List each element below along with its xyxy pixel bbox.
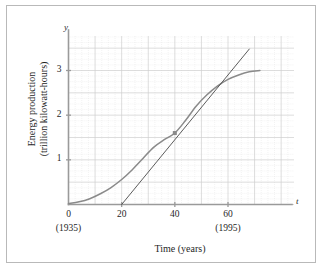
- x-tick-label: 40: [164, 209, 186, 219]
- x-tick-label: 60: [217, 209, 239, 219]
- x-axis-title: Time (years): [110, 243, 250, 254]
- y-axis-title-line-2: (trillion kilowatt-hours): [38, 34, 50, 184]
- tangent-line: [122, 49, 250, 204]
- grid-major-lines: [69, 36, 295, 205]
- year-annotation: (1995): [205, 223, 251, 233]
- x-tick-label: 0: [58, 209, 80, 219]
- y-axis-title: Energy production (trillion kilowatt-hou…: [26, 34, 50, 184]
- axis-lines: [69, 30, 293, 205]
- grid-minor-lines: [69, 36, 295, 205]
- x-axis-letter: t: [296, 196, 299, 206]
- x-tick-label: 20: [111, 209, 133, 219]
- axis-tick-marks: [66, 71, 228, 208]
- year-annotation: (1935): [46, 223, 92, 233]
- inflection-point-marker: [173, 131, 177, 135]
- figure-container: y t 123 0204060 (1935)(1995) Time (years…: [0, 0, 322, 270]
- data-series-layer: [69, 49, 260, 204]
- y-axis-letter: y: [64, 22, 68, 32]
- data-marker-layer: [173, 131, 177, 135]
- y-axis-title-line-1: Energy production: [26, 72, 37, 147]
- energy-production-curve: [69, 71, 260, 204]
